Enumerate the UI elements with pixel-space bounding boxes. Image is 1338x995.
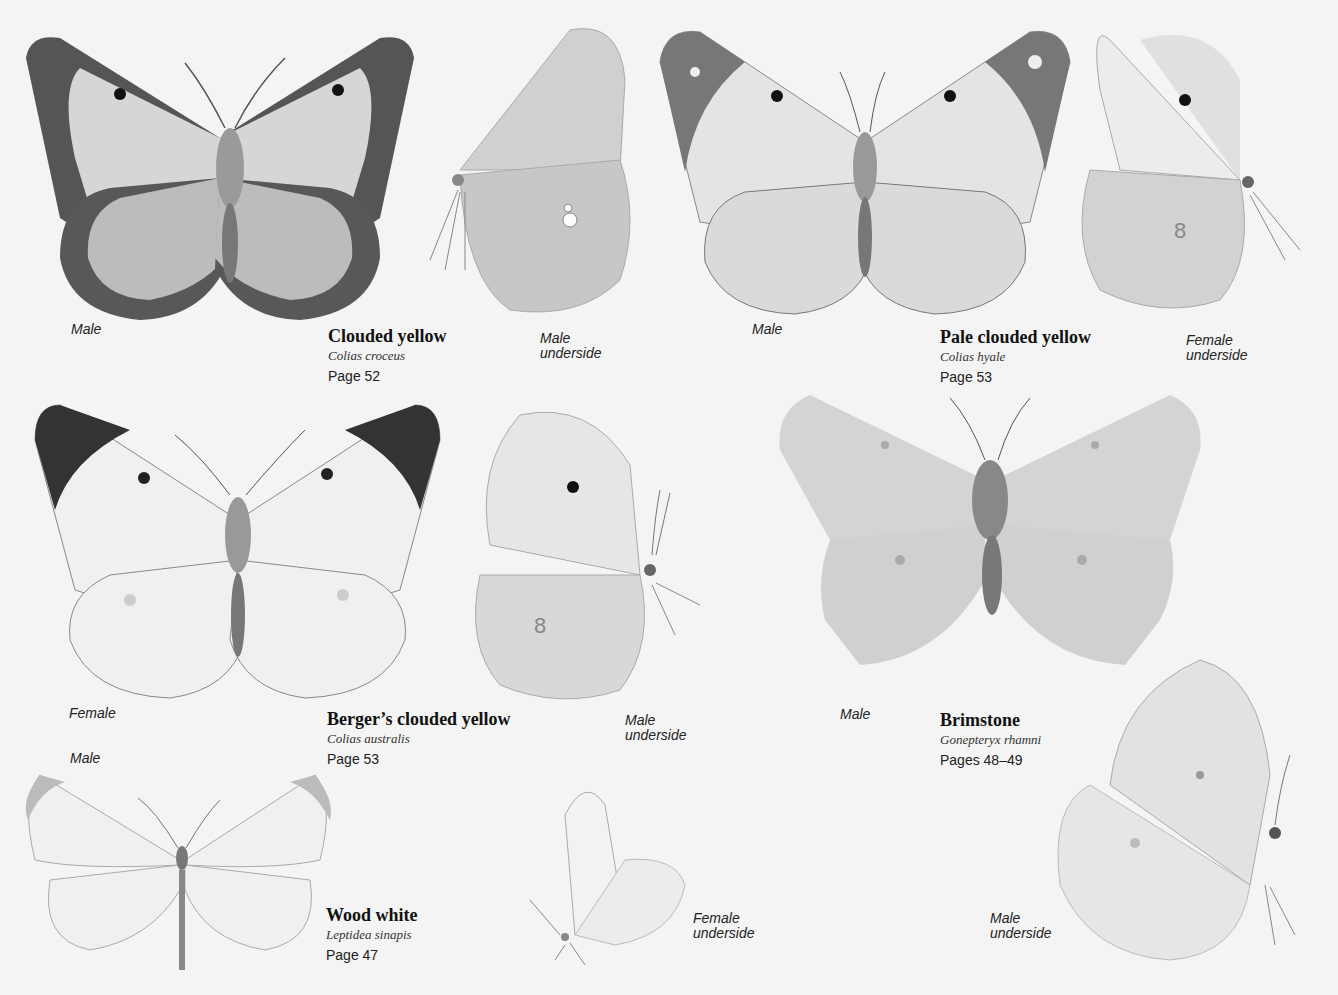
label-line-1: Male <box>990 910 1020 926</box>
label-line-2: underside <box>1186 347 1248 363</box>
label-line-1: Female <box>693 910 740 926</box>
caption-clouded-yellow: Clouded yellow Colias croceus Page 52 <box>328 326 447 387</box>
wood-white-underside-label: Female underside <box>693 911 755 941</box>
latin-name: Leptidea sinapis <box>326 926 418 944</box>
latin-name: Gonepteryx rhamni <box>940 731 1041 749</box>
page-reference: Page 52 <box>328 365 447 387</box>
label-line-2: underside <box>990 925 1052 941</box>
page-reference: Page 53 <box>327 748 511 770</box>
bergers-clouded-yellow-female-illustration <box>30 400 445 700</box>
page-reference: Pages 48–49 <box>940 749 1041 771</box>
caption-brimstone: Brimstone Gonepteryx rhamni Pages 48–49 <box>940 710 1041 771</box>
brimstone-male-underside-illustration <box>1050 655 1310 975</box>
pale-clouded-yellow-male-illustration <box>655 22 1075 322</box>
caption-wood-white: Wood white Leptidea sinapis Page 47 <box>326 905 418 966</box>
common-name: Berger’s clouded yellow <box>327 709 511 730</box>
svg-text:8: 8 <box>534 613 546 638</box>
label-line-2: underside <box>625 727 687 743</box>
bergers-clouded-yellow-female-label: Female <box>69 706 116 721</box>
label-line-2: underside <box>540 345 602 361</box>
clouded-yellow-male-label: Male <box>71 322 101 337</box>
common-name: Pale clouded yellow <box>940 327 1091 348</box>
brimstone-male-illustration <box>770 390 1210 675</box>
label-line-2: underside <box>693 925 755 941</box>
brimstone-underside-label: Male underside <box>990 911 1052 941</box>
latin-name: Colias croceus <box>328 347 447 365</box>
bergers-clouded-yellow-underside-label: Male underside <box>625 713 687 743</box>
wood-white-male-illustration <box>20 770 335 970</box>
wood-white-male-label: Male <box>70 751 100 766</box>
svg-text:8: 8 <box>1174 218 1186 243</box>
pale-clouded-yellow-underside-label: Female underside <box>1186 333 1248 363</box>
bergers-clouded-yellow-male-underside-illustration: 8 <box>470 405 710 710</box>
latin-name: Colias australis <box>327 730 511 748</box>
pale-clouded-yellow-male-label: Male <box>752 322 782 337</box>
label-line-1: Male <box>540 330 570 346</box>
label-line-1: Female <box>1186 332 1233 348</box>
clouded-yellow-male-illustration <box>20 28 420 323</box>
common-name: Brimstone <box>940 710 1041 731</box>
caption-pale-clouded-yellow: Pale clouded yellow Colias hyale Page 53 <box>940 327 1091 388</box>
clouded-yellow-underside-label: Male underside <box>540 331 602 361</box>
common-name: Wood white <box>326 905 418 926</box>
label-line-1: Male <box>625 712 655 728</box>
page-reference: Page 47 <box>326 944 418 966</box>
pale-clouded-yellow-female-underside-illustration: 8 <box>1070 20 1310 320</box>
brimstone-male-label: Male <box>840 707 870 722</box>
latin-name: Colias hyale <box>940 348 1091 366</box>
wood-white-female-underside-illustration <box>525 775 690 965</box>
common-name: Clouded yellow <box>328 326 447 347</box>
caption-bergers-clouded-yellow: Berger’s clouded yellow Colias australis… <box>327 709 511 770</box>
clouded-yellow-male-underside-illustration <box>420 20 640 320</box>
page-reference: Page 53 <box>940 366 1091 388</box>
